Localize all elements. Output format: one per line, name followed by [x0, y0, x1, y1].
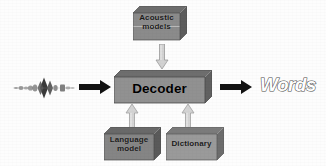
- arrow-language-model-to-decoder: [125, 104, 139, 128]
- right-arrow-icon: [79, 80, 112, 94]
- down-arrow-icon: [155, 44, 169, 70]
- speech-waveform-icon: [13, 76, 75, 100]
- block-decoder[interactable]: Decoder: [114, 70, 212, 104]
- speech-waveform: [13, 76, 75, 100]
- diagram-canvas: Acoustic models: [0, 0, 326, 166]
- block-language-model-label: Language model: [104, 135, 154, 153]
- block-acoustic-models[interactable]: Acoustic models: [133, 6, 187, 44]
- block-language-model[interactable]: Language model: [104, 127, 161, 161]
- words-text-glyphs: Words: [260, 74, 316, 95]
- block-dictionary-label: Dictionary: [166, 139, 217, 148]
- arrow-dictionary-to-decoder: [181, 104, 195, 128]
- block-dictionary[interactable]: Dictionary: [166, 127, 224, 161]
- output-words-label: Words: [258, 72, 324, 98]
- arrow-acoustic-to-decoder: [155, 44, 169, 70]
- up-arrow-icon: [181, 104, 195, 128]
- block-decoder-label: Decoder: [114, 81, 205, 97]
- right-arrow-icon: [220, 80, 253, 94]
- block-acoustic-models-label: Acoustic models: [133, 13, 180, 31]
- arrow-decoder-to-words: [220, 80, 253, 94]
- arrow-input-to-decoder: [79, 80, 112, 94]
- words-wordart-text: Words: [258, 72, 324, 98]
- up-arrow-icon: [125, 104, 139, 128]
